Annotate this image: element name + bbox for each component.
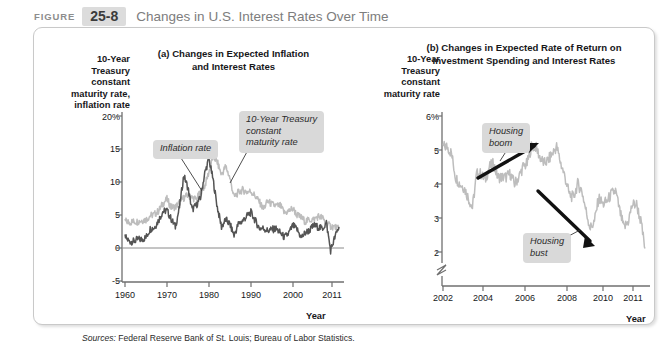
panel-a-treasury-line [125,153,339,231]
sources-note: Sources: Federal Reserve Bank of St. Lou… [82,333,355,343]
figure-number-badge: 25-8 [82,7,126,26]
treasury-rate-callout: 10-Year Treasury constant maturity rate [239,111,324,153]
sources-label: Sources: [82,333,116,343]
sources-text: Federal Reserve Bank of St. Louis; Burea… [116,333,355,343]
figure-header: Figure 25-8 Changes in U.S. Interest Rat… [34,6,388,27]
housing-bust-callout: Housing bust [523,233,571,263]
panel-a-treasury-leader [230,150,248,183]
figure-label: Figure [34,11,75,22]
panel-a-inflation-line [125,159,339,255]
inflation-rate-callout: Inflation rate [153,140,218,159]
housing-boom-callout: Housing boom [482,123,530,153]
figure-panel: (a) Changes in Expected Inflation and In… [33,27,655,325]
axis-break-icon [437,265,446,275]
charts-canvas [34,28,656,326]
panel-a-inflation-leader [181,158,202,191]
figure-title: Changes in U.S. Interest Rates Over Time [136,9,388,24]
